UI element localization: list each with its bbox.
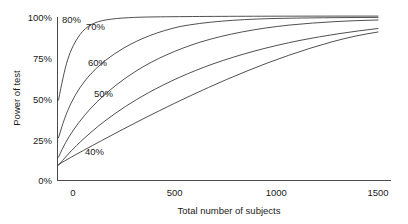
ytick-label-0: 0%	[38, 175, 52, 186]
curve-label-70: 70%	[86, 21, 106, 32]
xtick-label-500: 500	[167, 187, 183, 198]
ytick-label-100: 100%	[28, 12, 53, 23]
xtick-label-0: 0	[70, 187, 75, 198]
y-axis-title: Power of test	[11, 70, 22, 126]
curve-label-60: 60%	[88, 57, 108, 68]
ytick-label-50: 50%	[33, 94, 53, 105]
power-curve-chart: 100% 75% 50% 25% 0% 0 500 1000 1500 Tota…	[0, 0, 408, 224]
x-axis-title: Total number of subjects	[178, 205, 281, 216]
curve-label-40: 40%	[85, 146, 105, 157]
chart-plot-area: 100% 75% 50% 25% 0% 0 500 1000 1500 Tota…	[0, 0, 408, 224]
xtick-label-1500: 1500	[367, 187, 388, 198]
curve-label-50: 50%	[94, 88, 114, 99]
ytick-label-25: 25%	[33, 135, 53, 146]
ytick-label-75: 75%	[33, 53, 53, 64]
curve-label-80: 80%	[62, 14, 82, 25]
xtick-label-1000: 1000	[266, 187, 287, 198]
